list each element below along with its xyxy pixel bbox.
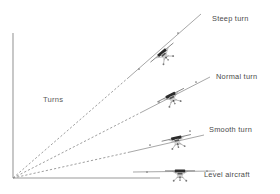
annotations-group: Turns <box>43 95 63 104</box>
path-marker <box>138 68 140 70</box>
path-marker <box>177 32 179 34</box>
flight-path-normal <box>140 77 210 113</box>
series-labels-group: Steep turnNormal turnSmooth turnLevel ai… <box>204 14 257 179</box>
label-level: Level aircraft <box>204 170 250 179</box>
path-marker <box>146 171 148 173</box>
annotation-turns: Turns <box>43 95 63 104</box>
path-marker <box>195 81 197 83</box>
dashed-ray-smooth <box>13 152 130 178</box>
label-smooth: Smooth turn <box>209 125 252 134</box>
diagram-canvas: Steep turnNormal turnSmooth turnLevel ai… <box>0 0 280 194</box>
turns-diagram: Steep turnNormal turnSmooth turnLevel ai… <box>0 0 280 194</box>
aircraft-group <box>150 42 195 182</box>
path-markers-group <box>138 32 208 173</box>
path-marker <box>189 130 191 132</box>
label-steep: Steep turn <box>212 14 249 23</box>
dashed-rays-group <box>13 78 140 178</box>
aircraft-icon-smooth <box>161 133 193 152</box>
flight-paths-group <box>128 14 215 172</box>
axes-group <box>13 33 160 178</box>
label-normal: Normal turn <box>216 72 257 81</box>
path-marker <box>149 144 151 146</box>
flight-path-smooth <box>130 135 204 152</box>
